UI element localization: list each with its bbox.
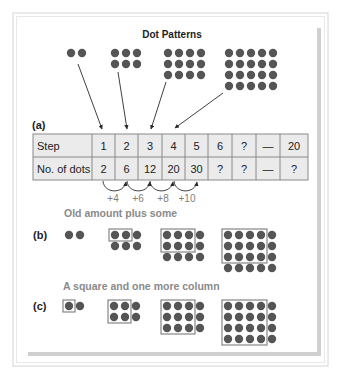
dot	[132, 313, 140, 321]
dot	[186, 49, 194, 57]
dot	[268, 335, 276, 343]
dot	[163, 253, 171, 261]
dot	[174, 302, 182, 310]
dot	[247, 49, 255, 57]
dot	[174, 313, 182, 321]
dot	[236, 49, 244, 57]
dot	[163, 242, 171, 250]
dot	[235, 313, 243, 321]
dot	[122, 60, 130, 68]
dot	[185, 313, 193, 321]
dot	[268, 324, 276, 332]
table-cell: 2	[100, 163, 106, 175]
dot	[246, 324, 254, 332]
dot	[121, 313, 129, 321]
dot	[269, 71, 277, 79]
dot	[247, 82, 255, 90]
dot	[196, 324, 204, 332]
dot	[269, 60, 277, 68]
dot	[121, 302, 129, 310]
section-c-label: (c)	[33, 300, 47, 312]
dot	[185, 324, 193, 332]
dot	[225, 60, 233, 68]
dot	[186, 60, 194, 68]
dot	[197, 49, 205, 57]
dot	[196, 253, 204, 261]
dot	[122, 242, 130, 250]
dot	[257, 302, 265, 310]
dot	[269, 49, 277, 57]
dot	[236, 82, 244, 90]
dot	[235, 324, 243, 332]
dot	[268, 313, 276, 321]
dot	[268, 302, 276, 310]
dot	[258, 71, 266, 79]
dot	[196, 302, 204, 310]
row-header-step: Step	[37, 140, 60, 152]
dot	[258, 82, 266, 90]
dot	[246, 313, 254, 321]
dot	[196, 313, 204, 321]
dot	[76, 302, 84, 310]
dot	[164, 71, 172, 79]
dot	[246, 264, 254, 272]
dot	[258, 60, 266, 68]
table-cell: 1	[100, 140, 106, 152]
dot	[246, 242, 254, 250]
dot	[224, 253, 232, 261]
dot	[246, 253, 254, 261]
dot	[76, 231, 84, 239]
dot	[185, 242, 193, 250]
dot	[268, 253, 276, 261]
table-cell: ?	[217, 163, 223, 175]
dot	[246, 231, 254, 239]
dot	[175, 71, 183, 79]
dot	[111, 242, 119, 250]
dot	[258, 49, 266, 57]
step-table: Step 1 2 3 4 5 6 ? — 20 No. of dots 2 6 …	[33, 134, 308, 180]
dot	[235, 264, 243, 272]
dot-patterns-figure: Dot Patterns (a) Step 1 2 3 4 5 6 ? — 20…	[0, 0, 342, 377]
dot	[246, 302, 254, 310]
dot	[225, 49, 233, 57]
dot	[257, 231, 265, 239]
dot	[247, 60, 255, 68]
table-cell: ?	[241, 163, 247, 175]
dot	[65, 302, 73, 310]
dot	[224, 302, 232, 310]
dot	[132, 302, 140, 310]
dot	[185, 302, 193, 310]
dot	[197, 60, 205, 68]
dot	[247, 71, 255, 79]
section-a-label: (a)	[32, 119, 46, 131]
dot	[235, 302, 243, 310]
dot	[110, 302, 118, 310]
section-c-heading: A square and one more column	[63, 280, 220, 292]
dot	[175, 60, 183, 68]
dot	[246, 335, 254, 343]
increment-label: +6	[132, 193, 144, 204]
dot	[268, 231, 276, 239]
table-cell: 6	[217, 140, 223, 152]
table-cell: 30	[190, 163, 202, 175]
figure-title: Dot Patterns	[142, 29, 202, 40]
table-cell: 6	[123, 163, 129, 175]
dot	[268, 264, 276, 272]
dot	[196, 242, 204, 250]
dot	[163, 324, 171, 332]
dot	[257, 313, 265, 321]
dot	[224, 335, 232, 343]
dot	[268, 242, 276, 250]
dot	[65, 231, 73, 239]
dot	[269, 82, 277, 90]
table-cell-ellipsis: —	[263, 163, 274, 175]
dot	[225, 71, 233, 79]
dot	[111, 49, 119, 57]
dot	[225, 82, 233, 90]
dot	[257, 253, 265, 261]
table-cell: 20	[288, 140, 300, 152]
dot	[163, 302, 171, 310]
dot	[235, 231, 243, 239]
table-cell: 4	[170, 140, 176, 152]
dot	[122, 231, 130, 239]
